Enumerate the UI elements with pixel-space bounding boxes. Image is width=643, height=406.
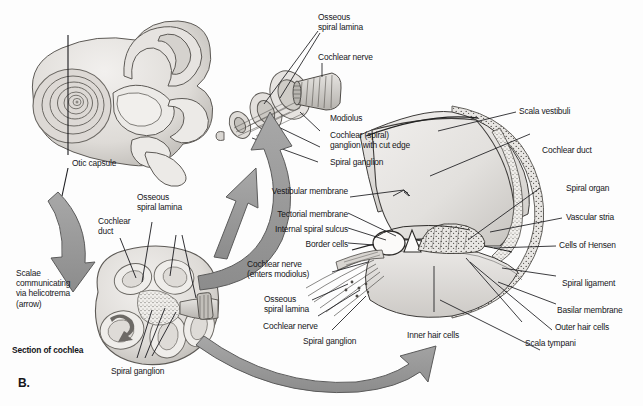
label-border-cells: Border cells [248,239,348,249]
label-cells-of-hensen: Cells of Hensen [559,240,616,250]
label-outer-hair-cells: Outer hair cells [555,322,609,332]
label-spiral-ganglion-detail: Spiral ganglion [303,336,356,346]
label-cochlear-spiral-ganglion-cut-edge: Cochlear (spiral) ganglion with cut edge [330,130,410,150]
label-section-of-cochlea: Section of cochlea [12,345,83,355]
label-cochlear-nerve-top: Cochlear nerve [318,52,373,62]
label-spiral-ganglion-mid: Spiral ganglion [330,157,383,167]
label-osseous-spiral-lamina-top: Osseous spiral lamina [318,12,363,32]
label-scalae-communicating: Scalae communicating via helicotrema (ar… [16,268,70,309]
label-scala-vestibuli: Scala vestibuli [519,106,570,116]
label-otic-capsule: Otic capsule [72,158,116,168]
label-osseous-spiral-lamina-section: Osseous spiral lamina [137,192,182,212]
label-vestibular-membrane: Vestibular membrane [248,186,348,196]
anatomy-figure-cochlea: Otic capsule Osseous spiral lamina Cochl… [0,0,643,406]
label-spiral-ganglion-section: Spiral ganglion [111,366,164,376]
label-tectorial-membrane: Tectorial membrane [248,209,348,219]
label-osseous-spiral-lamina-detail: Osseous spiral lamina [264,294,309,314]
label-internal-spiral-sulcus: Internal spiral sulcus [248,224,348,234]
label-vascular-stria: Vascular stria [566,212,614,222]
label-spiral-organ: Spiral organ [566,183,609,193]
label-modiolus: Modiolus [330,113,362,123]
label-spiral-ligament: Spiral ligament [562,278,615,288]
label-cochlear-nerve-detail: Cochlear nerve [263,321,318,331]
label-cochlear-duct-section: Cochlear duct [98,216,130,236]
label-inner-hair-cells: Inner hair cells [407,330,459,340]
panel-letter: B. [18,378,30,388]
label-scala-tympani: Scala tympani [525,338,576,348]
label-cochlear-duct-right: Cochlear duct [542,145,592,155]
label-cochlear-nerve-enters-modiolus: Cochlear nerve (enters modiolus) [247,259,309,279]
label-basilar-membrane: Basilar membrane [557,305,623,315]
